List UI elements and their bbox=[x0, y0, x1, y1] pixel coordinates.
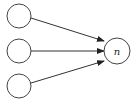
edge-input-1-to-output bbox=[31, 18, 104, 41]
output-node-label: n bbox=[114, 46, 120, 57]
input-node-3 bbox=[7, 74, 31, 98]
input-node-2 bbox=[7, 39, 31, 63]
input-node-1 bbox=[7, 4, 31, 28]
diagram-canvas: n bbox=[0, 0, 132, 99]
edge-input-3-to-output bbox=[31, 61, 104, 83]
